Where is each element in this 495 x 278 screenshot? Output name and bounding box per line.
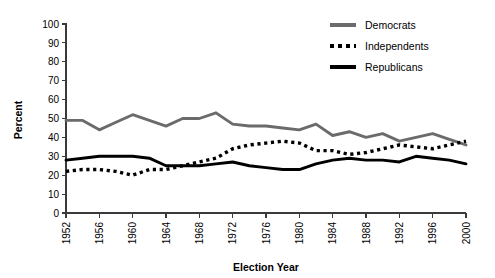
y-axis-title: Percent — [12, 100, 24, 139]
chart-canvas: 0102030405060708090100 19521956196019641… — [0, 0, 495, 278]
y-tick-label: 100 — [42, 19, 59, 30]
x-tick-label: 1972 — [227, 222, 238, 245]
x-tick-label: 1956 — [94, 222, 105, 245]
x-tick-label: 1960 — [127, 222, 138, 245]
y-tick-label: 50 — [48, 113, 60, 124]
y-tick-label: 70 — [48, 75, 60, 86]
y-tick-label: 90 — [48, 38, 60, 49]
y-tick-label: 80 — [48, 56, 60, 67]
x-tick-label: 1976 — [261, 222, 272, 245]
y-tick-label: 20 — [48, 170, 60, 181]
y-tick-label: 60 — [48, 94, 60, 105]
x-tick-label: 1980 — [294, 222, 305, 245]
x-tick-label: 1964 — [161, 222, 172, 245]
y-tick-label: 0 — [53, 208, 59, 219]
y-tick-label: 30 — [48, 151, 60, 162]
x-tick-label: 1996 — [427, 222, 438, 245]
x-tick-label: 1952 — [61, 222, 72, 245]
x-tick-label: 1988 — [361, 222, 372, 245]
line-chart: 0102030405060708090100 19521956196019641… — [0, 0, 495, 278]
legend-label-democrats: Democrats — [365, 19, 416, 31]
x-tick-label: 1992 — [394, 222, 405, 245]
legend-label-independents: Independents — [365, 40, 429, 52]
y-tick-label: 10 — [48, 189, 60, 200]
y-tick-label: 40 — [48, 132, 60, 143]
x-tick-label: 1984 — [327, 222, 338, 245]
x-tick-label: 1968 — [194, 222, 205, 245]
x-axis-title: Election Year — [233, 261, 299, 273]
legend-label-republicans: Republicans — [365, 61, 423, 73]
x-tick-label: 2000 — [461, 222, 472, 245]
